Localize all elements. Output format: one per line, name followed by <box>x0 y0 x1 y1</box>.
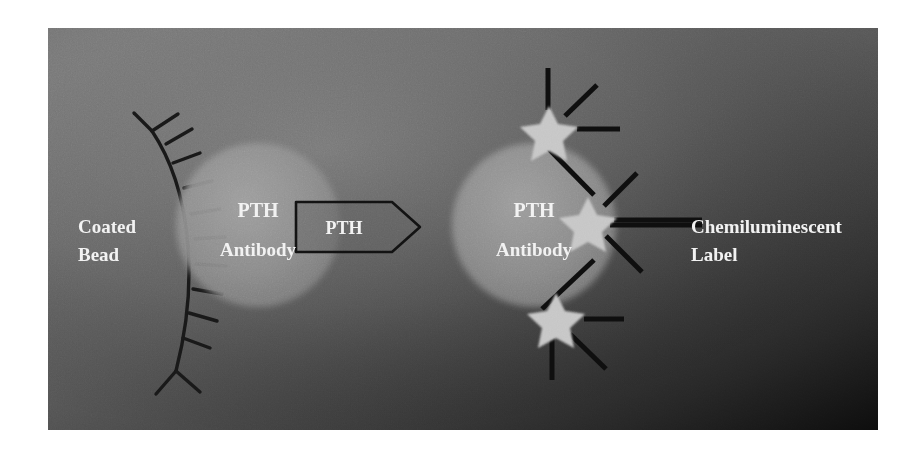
immunoassay-diagram: Coated Bead PTH Antibody PTH PTH Antibod… <box>48 28 878 430</box>
diagram-panel: Coated Bead PTH Antibody PTH PTH Antibod… <box>48 28 878 430</box>
grain-overlay <box>48 28 878 430</box>
figure-root: Coated Bead PTH Antibody PTH PTH Antibod… <box>0 0 919 463</box>
